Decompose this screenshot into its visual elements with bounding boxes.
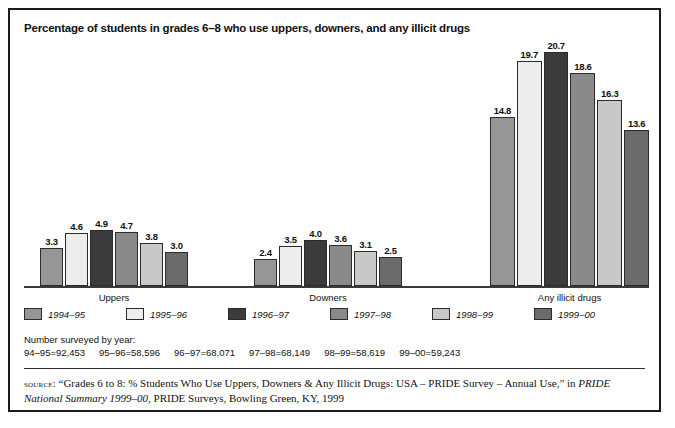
- bar-item[interactable]: 3.3: [40, 40, 63, 286]
- bar-value-label: 4.0: [309, 228, 321, 239]
- bar-value-label: 3.5: [284, 234, 296, 245]
- legend-label: 1998–99: [456, 309, 493, 320]
- survey-note: Number surveyed by year: 94–95=92,45395–…: [24, 334, 644, 359]
- legend-label: 1997–98: [354, 309, 391, 320]
- bar-value-label: 14.8: [494, 105, 511, 116]
- bar-value-label: 18.6: [574, 61, 591, 72]
- bar-value-label: 2.4: [259, 247, 271, 258]
- bar-group-bars: 14.819.720.718.616.313.6: [490, 40, 649, 286]
- group-axis-label: Downers: [254, 292, 402, 303]
- bar-item[interactable]: 14.8: [490, 40, 515, 286]
- legend-item[interactable]: 1995–96: [126, 308, 187, 320]
- bar-group-bars: 2.43.54.03.63.12.5: [254, 40, 402, 286]
- bar-rect[interactable]: [165, 252, 188, 286]
- survey-note-values: 94–95=92,45395–96=58,59696–97=68,07197–9…: [24, 346, 644, 359]
- bar-group-downers: 2.43.54.03.63.12.5Downers: [254, 40, 402, 286]
- bar-item[interactable]: 3.8: [140, 40, 163, 286]
- bar-rect[interactable]: [115, 232, 138, 286]
- bar-value-label: 4.7: [120, 220, 132, 231]
- bar-rect[interactable]: [90, 230, 113, 286]
- survey-note-heading: Number surveyed by year:: [24, 334, 644, 346]
- survey-note-entry: 98–99=58,619: [324, 346, 385, 359]
- bar-value-label: 3.0: [170, 240, 182, 251]
- bar-rect[interactable]: [65, 233, 88, 286]
- bar-item[interactable]: 18.6: [570, 40, 595, 286]
- legend-swatch: [24, 308, 42, 320]
- legend-label: 1996–97: [252, 309, 289, 320]
- chart-figure: Percentage of students in grades 6–8 who…: [8, 8, 661, 412]
- legend-item[interactable]: 1996–97: [228, 308, 289, 320]
- bar-rect[interactable]: [254, 259, 277, 286]
- bar-rect[interactable]: [379, 257, 402, 286]
- legend-swatch: [126, 308, 144, 320]
- bar-item[interactable]: 3.5: [279, 40, 302, 286]
- group-axis-label: Any illicit drugs: [490, 292, 649, 303]
- bar-rect[interactable]: [354, 251, 377, 286]
- bar-value-label: 16.3: [601, 88, 618, 99]
- axis-baseline: [24, 286, 649, 288]
- bar-item[interactable]: 4.7: [115, 40, 138, 286]
- bar-value-label: 4.9: [95, 218, 107, 229]
- bar-rect[interactable]: [597, 100, 622, 287]
- bar-value-label: 2.5: [384, 245, 396, 256]
- bar-item[interactable]: 4.0: [304, 40, 327, 286]
- bar-value-label: 3.3: [45, 236, 57, 247]
- bar-value-label: 4.6: [70, 221, 82, 232]
- bar-group-any-illicit-drugs: 14.819.720.718.616.313.6Any illicit drug…: [490, 40, 649, 286]
- bar-value-label: 13.6: [628, 118, 645, 129]
- source-label: source:: [24, 378, 56, 389]
- bar-rect[interactable]: [140, 243, 163, 286]
- legend-label: 1999–00: [558, 309, 595, 320]
- bar-item[interactable]: 3.6: [329, 40, 352, 286]
- legend-swatch: [534, 308, 552, 320]
- bar-rect[interactable]: [624, 130, 649, 286]
- survey-note-entry: 94–95=92,453: [24, 346, 85, 359]
- survey-note-entry: 97–98=68,149: [249, 346, 310, 359]
- legend-swatch: [228, 308, 246, 320]
- bar-item[interactable]: 2.5: [379, 40, 402, 286]
- legend-item[interactable]: 1994–95: [24, 308, 85, 320]
- bar-item[interactable]: 4.9: [90, 40, 113, 286]
- bar-item[interactable]: 19.7: [517, 40, 542, 286]
- source-text-after: , PRIDE Surveys, Bowling Green, KY, 1999: [148, 392, 344, 404]
- bar-item[interactable]: 16.3: [597, 40, 622, 286]
- bar-rect[interactable]: [570, 73, 595, 286]
- bar-item[interactable]: 4.6: [65, 40, 88, 286]
- bar-rect[interactable]: [544, 52, 569, 286]
- bar-group-uppers: 3.34.64.94.73.83.0Uppers: [40, 40, 188, 286]
- bar-value-label: 3.1: [359, 239, 371, 250]
- legend-swatch: [432, 308, 450, 320]
- legend-item[interactable]: 1998–99: [432, 308, 493, 320]
- bar-rect[interactable]: [279, 246, 302, 286]
- page-title: Percentage of students in grades 6–8 who…: [24, 22, 470, 34]
- bar-value-label: 3.8: [145, 231, 157, 242]
- legend-label: 1994–95: [48, 309, 85, 320]
- chart-legend: 1994–951995–961996–971997–981998–991999–…: [24, 308, 644, 326]
- bar-item[interactable]: 13.6: [624, 40, 649, 286]
- legend-item[interactable]: 1997–98: [330, 308, 391, 320]
- bar-value-label: 3.6: [334, 233, 346, 244]
- source-note: source: “Grades 6 to 8: % Students Who U…: [24, 376, 646, 406]
- bar-rect[interactable]: [329, 245, 352, 286]
- bar-rect[interactable]: [304, 240, 327, 286]
- survey-note-entry: 99–00=59,243: [399, 346, 460, 359]
- bar-group-bars: 3.34.64.94.73.83.0: [40, 40, 188, 286]
- bar-item[interactable]: 3.0: [165, 40, 188, 286]
- bar-item[interactable]: 2.4: [254, 40, 277, 286]
- bar-rect[interactable]: [40, 248, 63, 286]
- plot-area: 3.34.64.94.73.83.0Uppers2.43.54.03.63.12…: [24, 38, 649, 288]
- legend-label: 1995–96: [150, 309, 187, 320]
- survey-note-entry: 96–97=68,071: [174, 346, 235, 359]
- source-divider: [24, 368, 645, 369]
- bar-value-label: 19.7: [521, 49, 538, 60]
- legend-item[interactable]: 1999–00: [534, 308, 595, 320]
- legend-swatch: [330, 308, 348, 320]
- group-axis-label: Uppers: [40, 292, 188, 303]
- bar-item[interactable]: 3.1: [354, 40, 377, 286]
- bar-item[interactable]: 20.7: [544, 40, 569, 286]
- survey-note-entry: 95–96=58,596: [99, 346, 160, 359]
- bar-rect[interactable]: [517, 61, 542, 286]
- source-text-before: “Grades 6 to 8: % Students Who Use Upper…: [56, 377, 579, 389]
- bar-value-label: 20.7: [547, 40, 564, 51]
- bar-rect[interactable]: [490, 117, 515, 286]
